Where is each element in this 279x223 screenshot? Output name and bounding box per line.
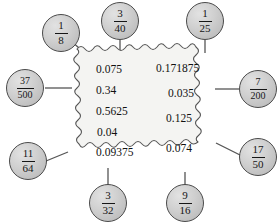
fraction-bubble-1-8[interactable]: 1 8 [42,14,80,52]
denominator: 25 [199,22,212,34]
fraction-bubble-9-16[interactable]: 9 16 [166,184,204,222]
fraction-bubble-3-40[interactable]: 3 40 [101,2,139,40]
fraction-bubble-1-25[interactable]: 1 25 [186,2,224,40]
numerator: 1 [57,20,65,32]
fraction-17-50: 17 50 [252,144,265,169]
denominator: 32 [102,204,115,216]
fraction-bubble-17-50[interactable]: 17 50 [239,138,277,176]
fraction-bubble-3-32[interactable]: 3 32 [89,184,127,222]
fraction-3-32: 3 32 [102,190,115,215]
fraction-7-200: 7 200 [250,77,267,100]
fraction-1-8: 1 8 [55,20,68,45]
fraction-3-40: 3 40 [114,8,127,33]
denominator: 40 [114,22,127,34]
numerator: 1 [201,8,209,20]
numerator: 7 [255,77,262,88]
leader-line-11-64 [46,152,68,161]
denominator: 16 [179,204,192,216]
denominator: 8 [57,34,65,46]
leader-line-17-50 [216,143,240,155]
figure-canvas: 0.075 0.34 0.5625 0.04 0.09375 0.171875 … [0,0,279,223]
fraction-9-16: 9 16 [179,190,192,215]
denominator: 200 [250,90,267,101]
denominator: 500 [17,89,34,100]
numerator: 11 [22,148,35,160]
fraction-bubble-7-200[interactable]: 7 200 [239,70,277,108]
numerator: 37 [19,76,31,87]
denominator: 50 [252,158,265,170]
numerator: 3 [116,8,124,20]
fraction-bubble-37-500[interactable]: 37 500 [6,69,44,107]
numerator: 9 [181,190,189,202]
denominator: 64 [22,162,35,174]
numerator: 3 [104,190,112,202]
numerator: 17 [252,144,265,156]
fraction-11-64: 11 64 [22,148,35,173]
fraction-1-25: 1 25 [199,8,212,33]
fraction-37-500: 37 500 [17,76,34,99]
torn-paper-panel [74,44,202,148]
fraction-bubble-11-64[interactable]: 11 64 [9,142,47,180]
